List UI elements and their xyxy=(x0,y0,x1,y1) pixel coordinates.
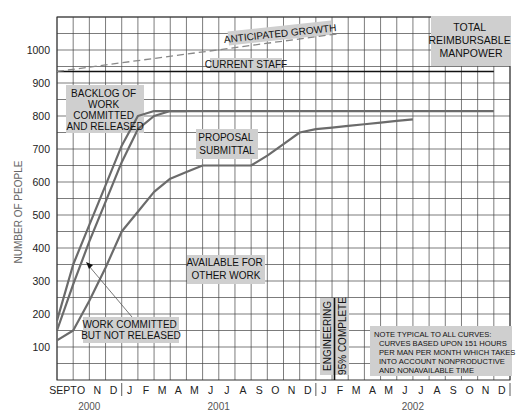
y-axis-ticks: 1002003004005006007008009001000 xyxy=(27,44,51,353)
work-committed-not-released-label: WORK COMMITTED BUT NOT RELEASED xyxy=(81,319,181,341)
x-tick-label: J xyxy=(127,384,132,396)
x-tick-label: M xyxy=(384,384,393,396)
x-tick-label: D xyxy=(498,384,506,396)
x-tick-label: N xyxy=(94,384,102,396)
x-tick-label: O xyxy=(271,384,279,396)
x-tick-label: M xyxy=(158,384,167,396)
year-label: 2002 xyxy=(402,401,425,412)
x-tick-label: S xyxy=(450,384,457,396)
series-line xyxy=(57,34,340,72)
x-tick-label: A xyxy=(239,384,246,396)
engineering-complete-label: 95% COMPLETE xyxy=(337,297,348,375)
x-tick-label: J xyxy=(418,384,423,396)
y-tick-label: 900 xyxy=(32,77,50,89)
x-tick-label: A xyxy=(175,384,182,396)
x-tick-label: S xyxy=(256,384,263,396)
year-label: 2001 xyxy=(208,401,231,412)
x-tick-label: O xyxy=(77,384,85,396)
engineering-label: ENGINEERING xyxy=(322,301,333,371)
y-tick-label: 400 xyxy=(32,242,50,254)
x-tick-label: F xyxy=(337,384,343,396)
x-tick-label: J xyxy=(224,384,229,396)
current-staff-label: CURRENT STAFF xyxy=(205,59,287,70)
x-tick-label: F xyxy=(143,384,149,396)
x-tick-label: D xyxy=(304,384,312,396)
x-tick-label: M xyxy=(190,384,199,396)
x-tick-label: J xyxy=(402,384,407,396)
x-tick-label: J xyxy=(208,384,213,396)
y-tick-label: 100 xyxy=(32,341,50,353)
series-line xyxy=(57,111,494,321)
x-tick-label: M xyxy=(352,384,361,396)
x-tick-label: SEPT xyxy=(49,384,77,396)
x-tick-label: D xyxy=(110,384,118,396)
x-tick-label: N xyxy=(288,384,296,396)
y-axis-label: NUMBER OF PEOPLE xyxy=(13,160,24,263)
x-axis-ticks: SEPTONDJFMAMJJASONDJFMAMJJASOND200020012… xyxy=(49,383,510,412)
y-tick-label: 800 xyxy=(32,110,50,122)
x-tick-label: J xyxy=(321,384,326,396)
y-tick-label: 1000 xyxy=(27,44,51,56)
x-tick-label: N xyxy=(482,384,490,396)
backlog-label: BACKLOG OF WORK COMMITTED AND RELEASED xyxy=(66,88,143,132)
x-tick-label: A xyxy=(434,384,441,396)
y-tick-label: 600 xyxy=(32,176,50,188)
y-tick-label: 700 xyxy=(32,143,50,155)
x-tick-label: O xyxy=(465,384,473,396)
year-label: 2000 xyxy=(78,401,101,412)
y-tick-label: 300 xyxy=(32,275,50,287)
pointer-arrow xyxy=(86,262,132,317)
x-tick-label: A xyxy=(369,384,376,396)
y-tick-label: 500 xyxy=(32,209,50,221)
manpower-chart: 1002003004005006007008009001000 SEPTONDJ… xyxy=(0,0,527,419)
series-lines xyxy=(57,34,494,341)
y-tick-label: 200 xyxy=(32,308,50,320)
